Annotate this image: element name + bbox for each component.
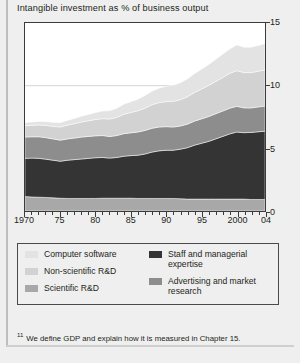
- x-tick-label: 95: [197, 216, 207, 225]
- legend-item-label: Advertising and market research: [168, 276, 275, 296]
- footnote: 11We define GDP and explain how it is me…: [17, 330, 287, 344]
- y-tick-label: 5: [270, 144, 275, 153]
- x-tick-mark: [67, 212, 68, 215]
- x-tick-mark: [252, 212, 253, 215]
- x-tick-mark: [38, 212, 39, 215]
- legend-column-right: Staff and managerial expertiseAdvertisin…: [149, 249, 275, 303]
- x-tick-mark: [52, 212, 53, 215]
- x-tick-mark: [188, 212, 189, 215]
- x-tick-label: 04: [261, 216, 271, 225]
- x-tick-mark: [74, 212, 75, 215]
- x-tick-label: 1970: [14, 216, 34, 225]
- plot-area: [24, 22, 266, 212]
- x-tick-label: 90: [161, 216, 171, 225]
- footnote-text: We define GDP and explain how it is meas…: [26, 334, 240, 343]
- x-tick-mark: [102, 212, 103, 215]
- x-tick-mark: [195, 212, 196, 215]
- legend-computer-software[interactable]: Computer software: [25, 249, 143, 259]
- legend-swatch-icon: [25, 251, 38, 258]
- x-tick-mark: [124, 212, 125, 215]
- x-tick-mark: [223, 212, 224, 215]
- x-tick-mark: [145, 212, 146, 215]
- x-tick-mark: [81, 212, 82, 215]
- x-tick-mark: [152, 212, 153, 215]
- legend-non-scientific-rd[interactable]: Non-scientific R&D: [25, 266, 143, 276]
- stacked-area-chart: [25, 23, 265, 211]
- legend-swatch-icon: [149, 278, 162, 285]
- chart-container: 05101519707580859095200004: [0, 0, 300, 230]
- legend-item-label: Computer software: [44, 249, 117, 259]
- legend-staff-managerial-expertise[interactable]: Staff and managerial expertise: [149, 249, 275, 269]
- x-tick-label: 2000: [228, 216, 248, 225]
- x-tick-mark: [88, 212, 89, 215]
- x-tick-label: 80: [90, 216, 100, 225]
- legend-scientific-rd[interactable]: Scientific R&D: [25, 283, 143, 293]
- legend-swatch-icon: [149, 251, 162, 258]
- x-tick-label: 85: [126, 216, 136, 225]
- figure-bottom-rule: [6, 345, 294, 347]
- x-tick-mark: [181, 212, 182, 215]
- figure-page: Intangible investment as % of business o…: [0, 0, 300, 363]
- x-tick-mark: [173, 212, 174, 215]
- x-tick-mark: [138, 212, 139, 215]
- x-tick-mark: [109, 212, 110, 215]
- footnote-marker: 11: [17, 332, 23, 338]
- chart-legend: Computer softwareNon-scientific R&DScien…: [17, 243, 279, 305]
- x-tick-mark: [216, 212, 217, 215]
- x-tick-mark: [159, 212, 160, 215]
- legend-swatch-icon: [25, 285, 38, 292]
- y-tick-label: 10: [270, 81, 280, 90]
- x-tick-mark: [259, 212, 260, 215]
- legend-column-left: Computer softwareNon-scientific R&DScien…: [25, 249, 143, 300]
- x-tick-mark: [209, 212, 210, 215]
- x-tick-mark: [117, 212, 118, 215]
- legend-item-label: Staff and managerial expertise: [168, 249, 275, 269]
- legend-item-label: Scientific R&D: [44, 283, 99, 293]
- legend-item-label: Non-scientific R&D: [44, 266, 116, 276]
- legend-swatch-icon: [25, 268, 38, 275]
- x-tick-mark: [45, 212, 46, 215]
- legend-advertising-market-research[interactable]: Advertising and market research: [149, 276, 275, 296]
- y-tick-label: 15: [270, 18, 280, 27]
- x-tick-label: 75: [55, 216, 65, 225]
